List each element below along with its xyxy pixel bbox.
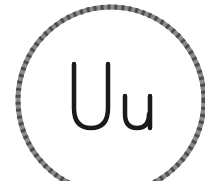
letter-card: Uu	[0, 0, 205, 181]
